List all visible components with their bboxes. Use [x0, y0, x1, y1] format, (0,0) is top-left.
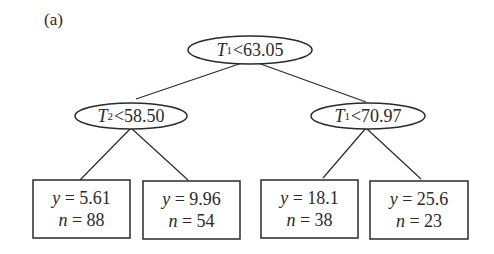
leaf-1-y: y = 5.61	[52, 187, 111, 209]
root-op: <	[233, 40, 243, 61]
right-node: T1 < 70.97	[311, 103, 425, 129]
edge-right-leaf4	[366, 128, 421, 179]
left-node: T2 < 58.50	[75, 103, 187, 129]
leaf-4-n: n = 23	[396, 210, 442, 232]
leaf-3: y = 18.1 n = 38	[261, 180, 358, 238]
leaf-3-n: n = 38	[286, 209, 332, 231]
edge-root-right	[258, 63, 366, 102]
left-op: <	[114, 106, 124, 127]
leaf-2-y: y = 9.96	[162, 188, 221, 210]
leaf-2: y = 9.96 n = 54	[143, 181, 240, 239]
leaf-4: y = 25.6 n = 23	[370, 181, 468, 239]
left-var: T	[97, 106, 107, 127]
root-node: T1 < 63.05	[188, 36, 312, 64]
leaf-3-y: y = 18.1	[280, 187, 339, 209]
leaf-1-n: n = 88	[58, 209, 104, 231]
leaf-1: y = 5.61 n = 88	[33, 180, 130, 238]
leaf-2-n: n = 54	[168, 210, 214, 232]
right-sub: 1	[344, 110, 350, 122]
right-op: <	[351, 106, 361, 127]
leaf-4-y: y = 25.6	[390, 188, 449, 210]
edge-root-left	[136, 63, 242, 99]
left-threshold: 58.50	[124, 106, 165, 127]
right-var: T	[334, 106, 344, 127]
edge-right-leaf3	[323, 128, 366, 178]
left-sub: 2	[107, 110, 113, 122]
edge-left-leaf1	[80, 128, 131, 180]
root-threshold: 63.05	[243, 40, 284, 61]
root-var: T	[216, 40, 226, 61]
root-sub: 1	[226, 44, 232, 56]
right-threshold: 70.97	[361, 106, 402, 127]
edge-left-leaf2	[131, 128, 188, 180]
